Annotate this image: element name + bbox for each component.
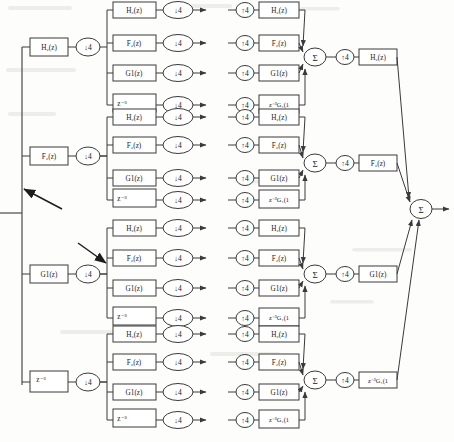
input-trunk bbox=[0, 47, 22, 385]
stage1-filter-label-1: H₂(z) bbox=[41, 44, 57, 52]
synthesis-group-2: ↑4 H₂(z) ↑4 F₂(z) ↑4 G1(z) ↑4 bbox=[228, 109, 410, 208]
synthesis-upsampler-label-4-1: ↑4 bbox=[241, 330, 249, 339]
stage2-branch-4-4[interactable]: z⁻³ ↓4 bbox=[107, 409, 206, 429]
stage2-downsampler-label-3-1: ↓4 bbox=[174, 224, 182, 233]
stage2-group-1: H₂(z) ↓4 F₂(z) ↓4 G1(z) ↓4 z⁻ bbox=[107, 2, 206, 114]
stage2-filter-label-4-2: F₂(z) bbox=[127, 359, 142, 367]
stage1-downsampler-label-2: ↓4 bbox=[84, 152, 92, 161]
synthesis-filter-label-1-3: G1(z) bbox=[271, 70, 288, 78]
annotation-arrow-upper bbox=[24, 189, 62, 209]
synthesis2-filter-label-3: G1(z) bbox=[370, 271, 387, 279]
stage2-filter-label-1-3: G1(z) bbox=[126, 70, 143, 78]
synthesis-branch-1-3[interactable]: ↑4 G1(z) bbox=[228, 64, 303, 81]
synthesis-filter-label-1-2: F₂(z) bbox=[272, 40, 287, 48]
synthesis-summer-label-4: Σ bbox=[312, 376, 317, 386]
synthesis-filter-label-3-1: H₂(z) bbox=[271, 225, 287, 233]
synthesis-branch-3-2[interactable]: ↑4 F₂(z) bbox=[228, 250, 303, 269]
stage2-filter-label-2-3: G1(z) bbox=[126, 175, 143, 183]
synthesis-filter-label-3-2: F₂(z) bbox=[272, 255, 287, 263]
stage1-branch-4[interactable]: z⁻³ ↓4 bbox=[22, 371, 107, 392]
stage2-branch-1-3[interactable]: G1(z) ↓4 bbox=[107, 65, 206, 82]
stage2-downsampler-label-4-4: ↓4 bbox=[174, 416, 182, 425]
synthesis2-upsampler-label-1: ↑4 bbox=[341, 53, 349, 62]
stage2-filter-label-3-4: z⁻³ bbox=[117, 313, 127, 321]
stage1-filter-label-2: F₂(z) bbox=[42, 153, 57, 161]
synthesis-upsampler-label-4-3: ↑4 bbox=[241, 388, 249, 397]
stage2-filter-label-4-3: G1(z) bbox=[126, 389, 143, 397]
stage2-filter-label-1-1: H₂(z) bbox=[126, 7, 142, 15]
synthesis-filter-label-4-3: G1(z) bbox=[271, 389, 288, 397]
synthesis-filter-label-2-1: H₂(z) bbox=[271, 114, 287, 122]
synthesis-upsampler-label-3-4: ↑4 bbox=[241, 314, 249, 323]
stage2-downsampler-label-2-4: ↓4 bbox=[174, 196, 182, 205]
stage1-downsampler-label-4: ↓4 bbox=[84, 378, 92, 387]
stage2-branch-4-1[interactable]: H₂(z) ↓4 bbox=[107, 326, 206, 343]
stage2-filter-label-3-2: F₂(z) bbox=[127, 255, 142, 263]
stage2-branch-1-2[interactable]: F₂(z) ↓4 bbox=[107, 35, 206, 52]
stage2-filter-label-1-4: z⁻³ bbox=[117, 100, 127, 108]
stage2-downsampler-label-3-3: ↓4 bbox=[174, 284, 182, 293]
stage2-downsampler-label-4-1: ↓4 bbox=[174, 330, 182, 339]
stage2-downsampler-label-2-3: ↓4 bbox=[174, 174, 182, 183]
synthesis-branch-4-2[interactable]: ↑4 F₂(z) bbox=[228, 354, 303, 375]
synthesis-filter-label-3-3: G1(z) bbox=[271, 285, 288, 293]
synthesis-filter-label-1-1: H₂(z) bbox=[271, 7, 287, 15]
stage2-downsampler-label-3-4: ↓4 bbox=[174, 314, 182, 323]
stage2-branch-3-1[interactable]: H₂(z) ↓4 bbox=[107, 220, 206, 237]
synthesis-branch-2-2[interactable]: ↑4 F₂(z) bbox=[228, 137, 303, 158]
synthesis-filter-label-2-4: z⁻³G₁(1 bbox=[269, 196, 289, 204]
stage2-branch-4-2[interactable]: F₂(z) ↓4 bbox=[107, 354, 206, 371]
stage2-filter-label-3-3: G1(z) bbox=[126, 285, 143, 293]
synthesis-upsampler-label-4-2: ↑4 bbox=[241, 358, 249, 367]
synthesis2-upsampler-label-2: ↑4 bbox=[341, 159, 349, 168]
stage2-branch-4-3[interactable]: G1(z) ↓4 bbox=[107, 384, 206, 401]
output-summer-label: Σ bbox=[418, 205, 423, 215]
synthesis2-upsampler-label-3: ↑4 bbox=[341, 270, 349, 279]
synthesis-branch-3-3[interactable]: ↑4 G1(z) bbox=[228, 280, 303, 296]
synthesis-branch-1-2[interactable]: ↑4 F₂(z) bbox=[228, 35, 303, 52]
stage1-downsampler-label-1: ↓4 bbox=[84, 43, 92, 52]
synthesis-summer-label-2: Σ bbox=[312, 159, 317, 169]
stage1-branch-1[interactable]: H₂(z) ↓4 bbox=[22, 38, 107, 56]
synthesis-summer-label-1: Σ bbox=[312, 53, 317, 63]
stage1-filter-label-3: G1(z) bbox=[41, 271, 58, 279]
stage2-downsampler-label-1-3: ↓4 bbox=[174, 69, 182, 78]
stage2-filter-label-2-1: H₂(z) bbox=[126, 114, 142, 122]
synthesis-filter-label-2-2: F₂(z) bbox=[272, 142, 287, 150]
stage2-branch-2-3[interactable]: G1(z) ↓4 bbox=[107, 170, 206, 187]
synthesis-branch-2-3[interactable]: ↑4 G1(z) bbox=[228, 170, 303, 186]
synthesis-upsampler-label-2-2: ↑4 bbox=[241, 141, 249, 150]
synthesis-filter-label-2-3: G1(z) bbox=[271, 175, 288, 183]
stage2-branch-2-2[interactable]: F₂(z) ↓4 bbox=[107, 137, 206, 154]
stage2-branch-2-1[interactable]: H₂(z) ↓4 bbox=[107, 109, 206, 126]
stage2-filter-label-2-2: F₂(z) bbox=[127, 142, 142, 150]
synthesis-upsampler-label-3-3: ↑4 bbox=[241, 284, 249, 293]
synthesis-filter-label-4-1: H₂(z) bbox=[271, 331, 287, 339]
synthesis-upsampler-label-1-3: ↑4 bbox=[241, 69, 249, 78]
synthesis-filter-label-3-4: z⁻³G₁(1 bbox=[269, 314, 289, 322]
stage1-downsampler-label-3: ↓4 bbox=[84, 270, 92, 279]
stage2-branch-3-3[interactable]: G1(z) ↓4 bbox=[107, 280, 206, 297]
synthesis2-filter-label-2: F₂(z) bbox=[371, 160, 386, 168]
stage2-filter-label-4-4: z⁻³ bbox=[117, 415, 127, 423]
stage2-branch-3-2[interactable]: F₂(z) ↓4 bbox=[107, 250, 206, 267]
stage1-branch-2[interactable]: F₂(z) ↓4 bbox=[22, 147, 107, 165]
stage2-branch-3-4[interactable]: z⁻³ ↓4 bbox=[107, 307, 206, 327]
synthesis-upsampler-label-2-1: ↑4 bbox=[241, 113, 249, 122]
stage2-group-3: H₂(z) ↓4 F₂(z) ↓4 G1(z) ↓4 z⁻ bbox=[100, 220, 206, 327]
synthesis-summer-label-3: Σ bbox=[312, 270, 317, 280]
synthesis-upsampler-label-1-2: ↑4 bbox=[241, 39, 249, 48]
synthesis-upsampler-label-2-3: ↑4 bbox=[241, 174, 249, 183]
stage2-filter-label-3-1: H₂(z) bbox=[126, 225, 142, 233]
stage2-downsampler-label-3-2: ↓4 bbox=[174, 254, 182, 263]
synthesis-branch-4-3[interactable]: ↑4 G1(z) bbox=[228, 384, 303, 400]
synthesis-filter-label-4-4: z⁻³G₁(1 bbox=[269, 416, 289, 424]
stage2-downsampler-label-1-2: ↓4 bbox=[174, 39, 182, 48]
output-summer-group: Σ bbox=[410, 200, 449, 219]
stage1-branch-3[interactable]: G1(z) ↓4 bbox=[22, 265, 107, 283]
stage1-filter-label-4: z⁻³ bbox=[36, 376, 46, 384]
synthesis-upsampler-label-1-4: ↑4 bbox=[241, 101, 249, 110]
stage2-branch-2-4[interactable]: z⁻³ ↓4 bbox=[107, 189, 206, 209]
synthesis-filter-label-1-4: z⁻³G₁(1 bbox=[269, 101, 289, 109]
stage2-downsampler-label-4-3: ↓4 bbox=[174, 388, 182, 397]
